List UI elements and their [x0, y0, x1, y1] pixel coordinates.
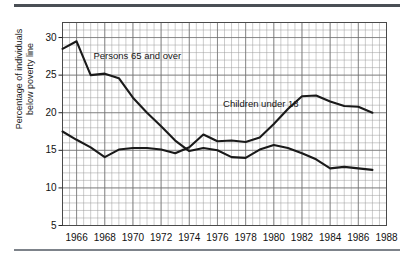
- line-chart-plot: [0, 0, 408, 258]
- y-tick-label: 5: [29, 220, 57, 231]
- y-tick-label: 15: [29, 144, 57, 155]
- figure-container: Percentage of individuals below poverty …: [0, 0, 408, 258]
- y-tick-label: 30: [29, 32, 57, 43]
- series-annotation-1: Persons 65 and over: [93, 50, 181, 61]
- y-tick-label: 10: [29, 182, 57, 193]
- y-tick-label: 25: [29, 69, 57, 80]
- series-annotation-2: Children under 18: [223, 98, 299, 109]
- y-tick-label: 20: [29, 107, 57, 118]
- plot-wrapper: Percentage of individuals below poverty …: [0, 0, 408, 258]
- x-tick-label: 1988: [369, 232, 405, 243]
